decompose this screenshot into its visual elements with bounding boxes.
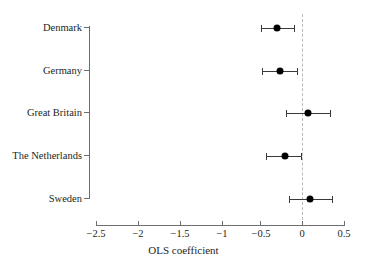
data-point-germany [277, 68, 284, 75]
x-axis-line [96, 225, 345, 226]
x-axis-label-neg0-5: −0.5 [251, 228, 270, 239]
x-tick-zero [302, 221, 303, 226]
x-tick-0-5 [344, 221, 345, 226]
data-point-sweden [307, 196, 314, 203]
error-cap-right-denmark [294, 25, 295, 32]
error-cap-left-denmark [261, 25, 262, 32]
coefficient-plot-figure: Denmark Germany Great Britain The Nether… [0, 0, 367, 265]
zero-reference-line [302, 14, 303, 220]
y-axis-label-the-netherlands: The Netherlands [12, 150, 82, 161]
error-cap-right-the-netherlands [301, 153, 302, 160]
y-tick-denmark [84, 27, 89, 28]
y-tick-great-britain [84, 112, 89, 113]
x-axis-label-neg1-5: −1.5 [170, 228, 189, 239]
x-axis-label-zero: 0 [299, 228, 304, 239]
x-axis-title: OLS coefficient [0, 244, 367, 256]
error-cap-left-germany [262, 68, 263, 75]
x-tick-neg2 [138, 221, 139, 226]
error-cap-left-great-britain [286, 110, 287, 117]
y-axis-label-germany: Germany [43, 65, 82, 76]
error-cap-right-germany [297, 68, 298, 75]
error-cap-right-sweden [332, 196, 333, 203]
data-point-denmark [274, 25, 281, 32]
x-axis-label-0-5: 0.5 [337, 228, 350, 239]
error-cap-left-the-netherlands [266, 153, 267, 160]
data-point-great-britain [305, 110, 312, 117]
y-axis-label-great-britain: Great Britain [27, 107, 82, 118]
y-tick-germany [84, 70, 89, 71]
error-cap-left-sweden [289, 196, 290, 203]
x-tick-neg2-5 [96, 221, 97, 226]
y-axis-line [89, 26, 90, 199]
y-axis-label-sweden: Sweden [49, 193, 82, 204]
error-cap-right-great-britain [330, 110, 331, 117]
plot-area: Denmark Germany Great Britain The Nether… [0, 0, 367, 265]
x-tick-neg0-5 [260, 221, 261, 226]
x-tick-neg1 [222, 221, 223, 226]
x-axis-label-neg1: −1 [216, 228, 227, 239]
y-tick-the-netherlands [84, 155, 89, 156]
y-tick-sweden [84, 198, 89, 199]
y-axis-label-denmark: Denmark [43, 22, 82, 33]
data-point-the-netherlands [282, 153, 289, 160]
x-tick-neg1-5 [180, 221, 181, 226]
x-axis-label-neg2-5: −2.5 [86, 228, 105, 239]
x-axis-label-neg2: −2 [132, 228, 143, 239]
